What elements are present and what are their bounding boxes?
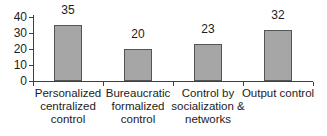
x-axis-tick <box>313 82 314 86</box>
bar <box>54 25 82 81</box>
x-axis-tick <box>33 82 34 86</box>
x-axis-tick <box>173 82 174 86</box>
bar-value-label: 23 <box>173 22 243 36</box>
y-tick-label: 0 <box>0 74 27 88</box>
y-axis-tick <box>29 65 33 66</box>
y-axis-tick <box>29 49 33 50</box>
y-tick-label: 40 <box>0 10 27 24</box>
bar-value-label: 32 <box>243 8 313 22</box>
bar-value-label: 35 <box>33 3 103 17</box>
x-axis-tick <box>103 82 104 86</box>
category-label: Output control <box>233 87 323 100</box>
bar <box>194 44 222 81</box>
y-axis-tick <box>29 33 33 34</box>
y-axis-tick <box>29 17 33 18</box>
bar <box>124 49 152 81</box>
bar <box>264 30 292 81</box>
bar-chart: 01020304035Personalized centralized cont… <box>0 0 327 136</box>
y-tick-label: 10 <box>0 58 27 72</box>
bar-value-label: 20 <box>103 27 173 41</box>
y-tick-label: 20 <box>0 42 27 56</box>
y-axis-line <box>33 15 34 82</box>
y-tick-label: 30 <box>0 26 27 40</box>
x-axis-tick <box>243 82 244 86</box>
